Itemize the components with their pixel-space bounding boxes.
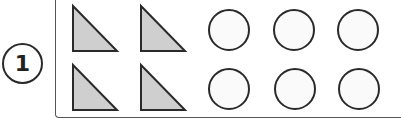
circle-icon bbox=[209, 10, 249, 50]
right-triangle-icon bbox=[73, 6, 117, 51]
triangle-group bbox=[73, 6, 185, 110]
right-triangle-icon bbox=[141, 65, 185, 110]
circle-icon bbox=[209, 69, 249, 109]
right-triangle-icon bbox=[73, 65, 117, 110]
circle-icon bbox=[274, 10, 314, 50]
circle-icon bbox=[339, 69, 379, 109]
circle-group bbox=[209, 10, 379, 109]
circle-icon bbox=[275, 69, 315, 109]
circle-icon bbox=[338, 10, 378, 50]
right-triangle-icon bbox=[141, 6, 185, 51]
